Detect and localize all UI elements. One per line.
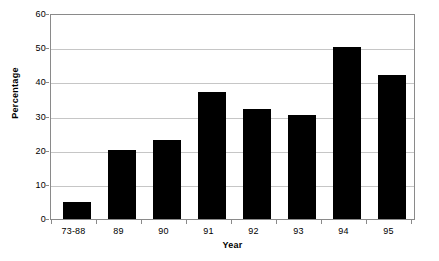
bar-93[interactable] xyxy=(288,115,316,219)
x-ticklabel-92: 92 xyxy=(248,226,258,236)
x-tickmark xyxy=(96,220,97,224)
bar-90[interactable] xyxy=(153,140,181,219)
y-ticklabel: 10 xyxy=(0,181,46,190)
y-tickmark xyxy=(45,82,49,83)
x-ticklabel-91: 91 xyxy=(203,226,213,236)
y-axis: 60 50 40 30 20 10 0 xyxy=(0,14,46,220)
x-tickmark xyxy=(321,220,322,224)
y-tickmark xyxy=(45,48,49,49)
bar-89[interactable] xyxy=(108,150,136,219)
y-ticklabel: 0 xyxy=(0,215,46,224)
x-tickmark xyxy=(231,220,232,224)
y-tickmark xyxy=(45,14,49,15)
y-ticklabel: 50 xyxy=(0,44,46,53)
y-ticklabel: 30 xyxy=(0,113,46,122)
x-ticklabel-93: 93 xyxy=(293,226,303,236)
x-ticklabel-94: 94 xyxy=(338,226,348,236)
x-ticklabel-95: 95 xyxy=(383,226,393,236)
y-tickmark xyxy=(45,117,49,118)
x-ticklabel-90: 90 xyxy=(158,226,168,236)
bar-91[interactable] xyxy=(198,92,226,220)
bars-layer xyxy=(51,15,414,219)
bar-73-88[interactable] xyxy=(63,202,91,219)
x-tickmark xyxy=(411,220,412,224)
y-tickmark xyxy=(45,185,49,186)
x-tickmark xyxy=(141,220,142,224)
x-ticklabel-73-88: 73-88 xyxy=(61,226,85,236)
y-axis-title: Percentage xyxy=(10,53,20,133)
bar-94[interactable] xyxy=(333,47,361,219)
y-ticklabel: 40 xyxy=(0,78,46,87)
x-tickmark xyxy=(186,220,187,224)
x-tickmark xyxy=(51,220,52,224)
x-tickmark xyxy=(366,220,367,224)
x-tickmark xyxy=(276,220,277,224)
y-tickmark xyxy=(45,219,49,220)
x-axis-title: Year xyxy=(50,240,415,250)
bar-95[interactable] xyxy=(378,75,406,220)
x-ticklabel-89: 89 xyxy=(113,226,123,236)
y-ticklabel: 20 xyxy=(0,147,46,156)
y-ticklabel: 60 xyxy=(0,10,46,19)
y-tickmark xyxy=(45,151,49,152)
bar-92[interactable] xyxy=(243,109,271,220)
bar-chart: 60 50 40 30 20 10 0 Percentage xyxy=(0,0,439,261)
